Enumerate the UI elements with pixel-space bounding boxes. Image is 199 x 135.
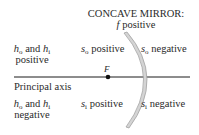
image-distance-negative-label: si negative bbox=[141, 98, 185, 109]
focal-point-label: F bbox=[104, 64, 110, 75]
object-distance-positive-label: so positive bbox=[81, 43, 124, 54]
object-distance-negative-label: so negative bbox=[141, 43, 187, 54]
concave-mirror-sign-convention-diagram: CONCAVE MIRROR: f positive ho and hi pos… bbox=[0, 0, 199, 135]
image-distance-positive-label: si positive bbox=[81, 98, 123, 109]
focal-length-sign: f positive bbox=[76, 19, 196, 30]
heights-negative-label: ho and hi negative bbox=[10, 98, 54, 120]
focal-point-dot bbox=[106, 75, 111, 80]
heights-positive-label: ho and hi positive bbox=[10, 43, 54, 65]
mirror-title: CONCAVE MIRROR: bbox=[76, 8, 196, 19]
principal-axis-label: Principal axis bbox=[14, 81, 71, 92]
